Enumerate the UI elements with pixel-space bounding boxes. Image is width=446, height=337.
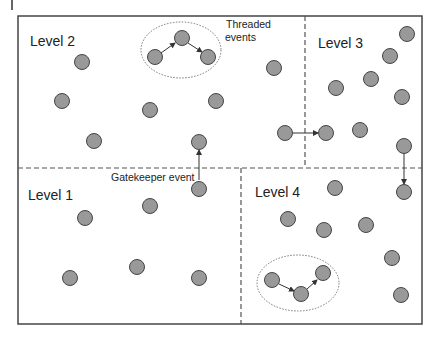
event-node [281,212,296,227]
threaded-label-line1: Threaded [226,18,271,30]
event-node [63,271,78,286]
event-node [192,135,207,150]
level-2-label: Level 2 [30,33,75,49]
event-node [55,94,70,109]
event-node [397,139,412,154]
event-node [328,181,343,196]
event-node [317,223,332,238]
event-node [395,90,410,105]
event-node [294,287,309,302]
event-node [400,27,415,42]
event-node [175,31,190,46]
threaded-label-line2: events [225,31,256,43]
event-node [130,260,145,275]
event-node [78,211,93,226]
event-node [265,273,280,288]
event-node [267,61,282,76]
event-node [209,94,224,109]
event-node [359,218,374,233]
event-levels-diagram: Level 2 Level 3 Level 1 Level 4 Threaded… [0,0,446,337]
level-3-label: Level 3 [318,35,363,51]
event-node [383,49,398,64]
event-node [87,134,102,149]
event-node [201,50,216,65]
event-node [278,126,293,141]
event-node [143,103,158,118]
event-node [319,126,334,141]
event-node [316,266,331,281]
event-node [192,182,207,197]
event-node [329,81,344,96]
event-nodes [55,27,415,303]
event-node [75,55,90,70]
level-1-label: Level 1 [28,187,73,203]
level-4-label: Level 4 [255,184,300,200]
event-node [397,185,412,200]
event-node [148,50,163,65]
event-node [364,72,379,87]
event-node [192,271,207,286]
gatekeeper-label: Gatekeeper event [111,171,195,183]
event-node [143,199,158,214]
event-node [394,288,409,303]
event-node [353,123,368,138]
event-node [385,251,400,266]
